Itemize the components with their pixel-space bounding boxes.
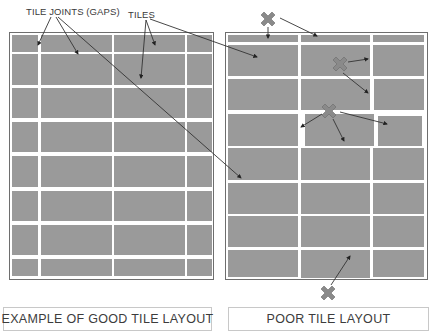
tile xyxy=(41,191,112,221)
tile xyxy=(41,54,112,85)
tile xyxy=(41,35,112,52)
tile xyxy=(12,259,38,276)
poor-layout-caption: POOR TILE LAYOUT xyxy=(228,307,429,331)
poor-tile-layout-panel xyxy=(225,32,428,280)
tile xyxy=(187,156,212,187)
good-layout-caption: EXAMPLE OF GOOD TILE LAYOUT xyxy=(3,307,212,331)
tile xyxy=(41,156,112,187)
tile xyxy=(41,88,112,118)
tile xyxy=(373,216,424,247)
tile xyxy=(41,259,112,276)
tile xyxy=(228,45,298,76)
tile xyxy=(301,183,370,214)
tile xyxy=(114,35,185,52)
tile xyxy=(12,88,38,118)
tile xyxy=(114,122,185,152)
tile xyxy=(187,35,212,52)
tile xyxy=(373,250,424,277)
tile xyxy=(305,114,374,146)
tile xyxy=(228,114,298,146)
tile xyxy=(114,225,185,255)
tile xyxy=(12,191,38,221)
tile xyxy=(378,116,422,146)
tile xyxy=(114,156,185,187)
tile xyxy=(228,148,298,180)
tile xyxy=(114,259,185,276)
tile xyxy=(373,35,424,42)
tile xyxy=(301,79,370,110)
tile xyxy=(228,35,298,42)
tile xyxy=(41,225,112,255)
tile xyxy=(12,35,38,52)
tile xyxy=(374,79,424,110)
tile xyxy=(373,183,424,214)
tile-joints-label: TILE JOINTS (GAPS) xyxy=(26,6,120,17)
tile xyxy=(228,250,298,277)
tile xyxy=(228,79,298,110)
tile xyxy=(187,225,212,255)
tile xyxy=(187,259,212,276)
tile xyxy=(187,88,212,118)
tile xyxy=(187,191,212,221)
tile xyxy=(228,183,298,214)
tile xyxy=(12,156,38,187)
tile xyxy=(12,122,38,152)
tile xyxy=(301,250,370,278)
tile xyxy=(228,216,298,247)
tiles-label: TILES xyxy=(128,9,155,20)
x-mark-icon xyxy=(321,286,335,300)
tile xyxy=(187,122,212,152)
tile xyxy=(114,54,185,85)
tile xyxy=(114,191,185,221)
tile xyxy=(12,54,38,85)
x-mark-icon xyxy=(261,12,275,26)
tile xyxy=(301,148,370,180)
tile xyxy=(301,35,370,42)
tile xyxy=(187,54,212,85)
tile xyxy=(301,45,370,76)
tile xyxy=(12,225,38,255)
tile xyxy=(373,45,424,76)
tile xyxy=(41,122,112,152)
tile xyxy=(373,148,424,180)
tile xyxy=(114,88,185,118)
good-tile-layout-panel xyxy=(9,32,214,280)
tile xyxy=(301,216,370,247)
